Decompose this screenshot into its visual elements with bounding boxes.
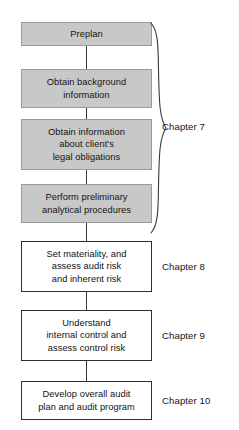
connector-control-to-auditplan	[86, 361, 87, 381]
node-understand-internal-control: Understand internal control and assess c…	[21, 310, 152, 361]
connector-analytical-to-materiality	[86, 223, 87, 241]
node-obtain-background-information-label: Obtain background information	[44, 76, 129, 100]
connector-materiality-to-control	[86, 292, 87, 310]
node-understand-internal-control-label: Understand internal control and assess c…	[43, 317, 129, 354]
flowchart-diagram: Preplan Obtain background information Ob…	[0, 0, 239, 430]
node-preliminary-analytical-procedures-label: Perform preliminary analytical procedure…	[39, 191, 134, 215]
chapter8-label: Chapter 8	[162, 261, 205, 273]
connector-background-to-legal	[86, 108, 87, 119]
chapter9-label: Chapter 9	[162, 330, 205, 342]
connector-legal-to-analytical	[86, 170, 87, 184]
node-develop-audit-plan: Develop overall audit plan and audit pro…	[21, 381, 152, 420]
node-set-materiality-label: Set materiality, and assess audit risk a…	[44, 248, 130, 285]
connector-preplan-to-background	[86, 46, 87, 69]
node-obtain-legal-obligations: Obtain information about client's legal …	[21, 119, 152, 170]
node-preplan-label: Preplan	[67, 28, 105, 40]
node-develop-audit-plan-label: Develop overall audit plan and audit pro…	[35, 388, 138, 412]
node-preplan: Preplan	[21, 22, 152, 46]
chapter7-label: Chapter 7	[162, 121, 205, 133]
node-preliminary-analytical-procedures: Perform preliminary analytical procedure…	[21, 184, 152, 223]
node-set-materiality: Set materiality, and assess audit risk a…	[21, 241, 152, 292]
node-obtain-legal-obligations-label: Obtain information about client's legal …	[45, 126, 128, 163]
node-obtain-background-information: Obtain background information	[21, 69, 152, 108]
chapter10-label: Chapter 10	[162, 395, 210, 407]
